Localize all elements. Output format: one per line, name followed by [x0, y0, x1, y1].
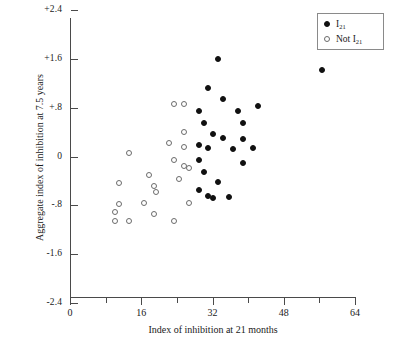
data-point-not-i21: [116, 201, 122, 207]
data-point-not-i21: [171, 157, 177, 163]
data-point-not-i21: [126, 218, 132, 224]
y-axis-tick: [71, 10, 78, 11]
data-point-not-i21: [171, 101, 177, 107]
data-point-i21: [250, 145, 256, 151]
data-point-i21: [196, 142, 202, 148]
data-point-i21: [196, 187, 202, 193]
data-point-i21: [240, 120, 246, 126]
data-point-i21: [196, 157, 202, 163]
data-point-i21: [220, 96, 226, 102]
open-circle-icon: [324, 36, 330, 42]
x-axis-minor-tick: [106, 298, 107, 303]
data-point-not-i21: [116, 180, 122, 186]
data-point-i21: [235, 108, 241, 114]
y-axis-tick: [71, 205, 78, 206]
data-point-i21: [205, 145, 211, 151]
x-axis-tick-label: 0: [50, 308, 90, 318]
x-axis-tick-label: 16: [121, 308, 161, 318]
y-axis-tick-label: +2.4: [26, 5, 62, 15]
data-point-not-i21: [181, 144, 187, 150]
y-axis-tick: [71, 254, 78, 255]
data-point-i21: [230, 146, 236, 152]
legend: I21 Not I21: [317, 13, 384, 50]
data-point-not-i21: [166, 140, 172, 146]
data-point-i21: [240, 160, 246, 166]
data-point-not-i21: [146, 172, 152, 178]
x-axis-minor-tick: [319, 298, 320, 303]
data-point-i21: [210, 131, 216, 137]
data-point-not-i21: [151, 211, 157, 217]
data-point-not-i21: [153, 189, 159, 195]
data-point-not-i21: [181, 163, 187, 169]
y-axis-line: [70, 18, 71, 298]
x-axis-tick: [284, 298, 285, 305]
x-axis-minor-tick: [177, 298, 178, 303]
x-axis-tick: [70, 298, 71, 305]
y-axis-tick: [71, 59, 78, 60]
data-point-i21: [319, 67, 325, 73]
legend-entry-i21: I21: [324, 18, 346, 30]
y-axis-tick: [71, 157, 78, 158]
data-point-i21: [201, 120, 207, 126]
data-point-not-i21: [141, 200, 147, 206]
data-point-i21: [201, 169, 207, 175]
data-point-not-i21: [126, 150, 132, 156]
x-axis-tick-label: 64: [335, 308, 375, 318]
x-axis-title: Index of inhibition at 21 months: [70, 324, 356, 335]
data-point-i21: [215, 179, 221, 185]
data-point-i21: [205, 85, 211, 91]
scatter-plot-figure: +2.4+1.6+.80-.8-1.6-2.4 016324864 Index …: [0, 0, 401, 348]
y-axis-title: Aggregate index of inhibition at 7.5 yea…: [34, 33, 45, 283]
data-point-i21: [196, 108, 202, 114]
legend-label-not-i21: Not I21: [336, 34, 362, 45]
x-axis-tick-label: 48: [264, 308, 304, 318]
data-point-not-i21: [181, 129, 187, 135]
y-axis-tick-label: -2.4: [26, 298, 62, 308]
data-point-not-i21: [171, 218, 177, 224]
x-axis-tick-label: 32: [193, 308, 233, 318]
data-point-i21: [220, 135, 226, 141]
data-point-not-i21: [112, 209, 118, 215]
x-axis-tick: [355, 298, 356, 305]
x-axis-minor-tick: [248, 298, 249, 303]
data-point-not-i21: [181, 101, 187, 107]
data-point-not-i21: [151, 183, 157, 189]
data-point-i21: [240, 136, 246, 142]
data-point-not-i21: [112, 218, 118, 224]
data-point-i21: [255, 103, 261, 109]
x-axis-tick: [141, 298, 142, 305]
x-axis-tick: [213, 298, 214, 305]
data-point-not-i21: [176, 176, 182, 182]
data-point-not-i21: [186, 165, 192, 171]
y-axis-tick: [71, 303, 78, 304]
legend-entry-not-i21: Not I21: [324, 33, 362, 45]
filled-circle-icon: [324, 21, 330, 27]
data-point-i21: [210, 195, 216, 201]
legend-label-i21: I21: [336, 19, 346, 30]
data-point-i21: [226, 194, 232, 200]
data-point-i21: [205, 193, 211, 199]
data-point-not-i21: [186, 200, 192, 206]
y-axis-tick: [71, 108, 78, 109]
data-point-i21: [215, 56, 221, 62]
